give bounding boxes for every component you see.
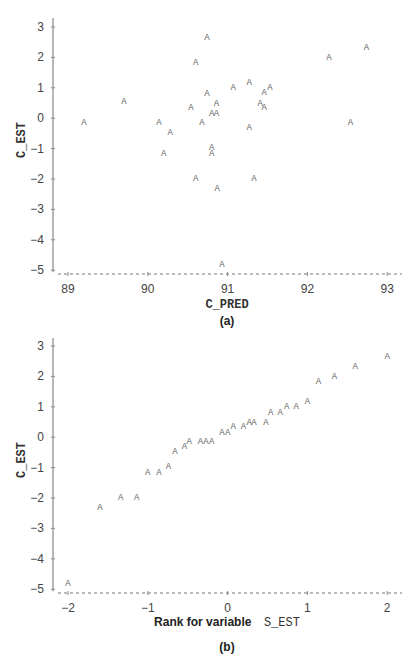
y-axis: 3210−1−2−3−4−5 <box>30 338 55 596</box>
x-tick-label: 90 <box>141 282 155 296</box>
y-tick-label: −1 <box>30 142 44 156</box>
data-point-marker: A <box>326 53 332 63</box>
scatter-plot-b: 3210−1−2−3−4−5 −2−1012 AAAAAAAAAAAAAAAAA… <box>0 330 415 664</box>
data-point-marker: A <box>145 468 151 478</box>
y-tick-label: 2 <box>37 50 44 64</box>
y-tick-label: 0 <box>37 111 44 125</box>
data-point-marker: A <box>188 103 194 113</box>
data-point-marker: A <box>193 174 199 184</box>
x-axis-title-variable: S_EST <box>264 616 300 630</box>
y-tick-label: 3 <box>37 20 44 34</box>
x-tick-label: 93 <box>381 282 395 296</box>
y-tick-label: −3 <box>30 202 44 216</box>
data-point-marker: A <box>353 362 359 372</box>
y-tick-label: −2 <box>30 491 44 505</box>
x-tick-label: 89 <box>61 282 75 296</box>
data-point-marker: A <box>268 408 274 418</box>
x-tick-label: −1 <box>141 601 155 615</box>
y-tick-label: 1 <box>37 81 44 95</box>
data-point-marker: A <box>209 437 215 447</box>
data-point-marker: A <box>294 402 300 412</box>
data-point-marker: A <box>199 118 205 128</box>
data-point-marker: A <box>214 99 220 109</box>
x-tick-label: 91 <box>221 282 235 296</box>
data-point-marker: A <box>246 123 252 133</box>
y-tick-label: −1 <box>30 461 44 475</box>
data-point-marker: A <box>209 149 215 159</box>
x-axis: 8990919293 <box>58 272 402 296</box>
data-point-marker: A <box>230 422 236 432</box>
y-axis-title: C_EST <box>15 122 29 158</box>
data-point-marker: A <box>204 89 210 99</box>
data-point-marker: A <box>214 109 220 119</box>
data-point-marker: A <box>305 397 311 407</box>
x-tick-label: 92 <box>301 282 315 296</box>
scatter-plot-a: 3210−1−2−3−4−5 8990919293 AAAAAAAAAAAAAA… <box>0 0 415 320</box>
data-point-marker: A <box>332 372 338 382</box>
y-tick-label: 2 <box>37 369 44 383</box>
chart-panel-b: 3210−1−2−3−4−5 −2−1012 AAAAAAAAAAAAAAAAA… <box>0 330 415 664</box>
data-point-marker: A <box>219 260 225 270</box>
data-point-marker: A <box>172 447 178 457</box>
caption-a-wrap: (a) <box>0 310 415 332</box>
data-point-marker: A <box>156 468 162 478</box>
x-axis: −2−1012 <box>58 591 402 615</box>
y-tick-label: 3 <box>37 339 44 353</box>
y-tick-label: −3 <box>30 521 44 535</box>
data-point-marker: A <box>118 493 124 503</box>
x-axis-title-prefix: Rank for variable <box>154 615 252 629</box>
data-point-marker: A <box>384 352 390 362</box>
data-point-marker: A <box>364 43 370 53</box>
data-points: AAAAAAAAAAAAAAAAAAAAAAAAAAAAA <box>81 33 369 270</box>
data-point-marker: A <box>204 33 210 43</box>
data-point-marker: A <box>267 83 273 93</box>
x-tick-label: 0 <box>224 601 231 615</box>
y-axis-title: C_EST <box>15 442 29 478</box>
data-point-marker: A <box>262 103 268 113</box>
x-axis-title: Rank for variable S_EST <box>154 612 300 630</box>
data-point-marker: A <box>121 97 127 107</box>
caption-b: (b) <box>219 640 234 654</box>
data-point-marker: A <box>251 174 257 184</box>
y-tick-label: −2 <box>30 172 44 186</box>
data-point-marker: A <box>278 408 284 418</box>
y-tick-label: −5 <box>30 263 44 277</box>
y-tick-label: −4 <box>30 233 44 247</box>
data-point-marker: A <box>187 437 193 447</box>
x-tick-label: 1 <box>304 601 311 615</box>
data-point-marker: A <box>215 184 221 194</box>
data-point-marker: A <box>167 128 173 138</box>
data-point-marker: A <box>65 579 71 589</box>
data-point-marker: A <box>81 118 87 128</box>
data-point-marker: A <box>316 377 322 387</box>
data-point-marker: A <box>246 78 252 88</box>
data-point-marker: A <box>263 418 269 428</box>
y-tick-label: 0 <box>37 430 44 444</box>
data-point-marker: A <box>134 493 140 503</box>
data-point-marker: A <box>166 462 172 472</box>
data-point-marker: A <box>230 83 236 93</box>
y-tick-label: −5 <box>30 582 44 596</box>
data-point-marker: A <box>193 58 199 68</box>
data-point-marker: A <box>156 118 162 128</box>
data-points: AAAAAAAAAAAAAAAAAAAAAAAAAAAAA <box>65 352 390 589</box>
y-tick-label: 1 <box>37 400 44 414</box>
data-point-marker: A <box>161 149 167 159</box>
data-point-marker: A <box>348 118 354 128</box>
x-tick-label: 2 <box>384 601 391 615</box>
data-point-marker: A <box>97 503 103 513</box>
x-tick-label: −2 <box>61 601 75 615</box>
caption-a: (a) <box>220 314 235 328</box>
y-tick-label: −4 <box>30 552 44 566</box>
y-axis: 3210−1−2−3−4−5 <box>30 18 55 277</box>
data-point-marker: A <box>284 402 290 412</box>
data-point-marker: A <box>251 418 257 428</box>
chart-panel-a: 3210−1−2−3−4−5 8990919293 AAAAAAAAAAAAAA… <box>0 0 415 320</box>
